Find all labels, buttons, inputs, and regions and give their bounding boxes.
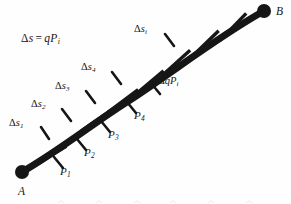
label-ds4-subscript: 4: [92, 66, 96, 74]
leader-ds3: [86, 91, 95, 103]
label-P1-base: P: [60, 165, 67, 177]
label-ds1-delta: Δ: [9, 117, 16, 128]
label-ds3-subscript: 3: [66, 85, 70, 93]
equation-delta-s-label: Δs=qPi: [21, 33, 60, 45]
equation-rhs-subscript: i: [58, 37, 61, 46]
label-dqpi-subscript: i: [176, 80, 178, 88]
label-dsi-subscript: i: [145, 28, 147, 36]
label-dqpi: ΔqPi: [158, 76, 179, 87]
label-dqpi-delta: Δ: [158, 75, 165, 86]
label-ds3: Δs3: [55, 81, 70, 92]
label-ds4-delta: Δ: [81, 61, 88, 72]
leader-ds1: [41, 127, 49, 139]
label-P4: P4: [134, 110, 145, 121]
label-P3-base: P: [108, 128, 115, 140]
label-P4-base: P: [134, 109, 141, 121]
leader-ds2: [62, 109, 71, 121]
leader-ds4: [112, 72, 121, 84]
label-ds2-subscript: 2: [42, 103, 46, 111]
leader-dsi: [165, 34, 174, 46]
label-P2-base: P: [84, 146, 91, 158]
figure-container: Δs=qPi A B P1P2P3P4Δs1Δs2Δs3Δs4ΔsiΔqPi: [0, 0, 291, 204]
label-ds3-delta: Δ: [55, 80, 62, 91]
label-P2: P2: [84, 147, 95, 158]
endpoint-label-b: B: [276, 6, 283, 18]
endpoint-dot-a: [15, 165, 29, 179]
tick-1: [34, 146, 67, 166]
label-P1-subscript: 1: [67, 170, 71, 179]
equation-delta-symbol: Δ: [21, 32, 29, 44]
endpoint-dot-b: [257, 4, 271, 18]
label-ds4: Δs4: [81, 62, 96, 73]
label-P4-subscript: 4: [141, 114, 145, 123]
label-dsi-delta: Δ: [134, 23, 141, 34]
equation-rhs: qP: [44, 32, 57, 44]
endpoint-label-b-text: B: [276, 5, 283, 17]
endpoint-label-a-text: A: [18, 185, 25, 197]
label-ds2: Δs2: [31, 99, 46, 110]
label-ds2-delta: Δ: [31, 98, 38, 109]
label-dqpi-base: qP: [165, 75, 177, 86]
label-P2-subscript: 2: [91, 151, 95, 160]
equation-operator: =: [33, 32, 44, 44]
label-dsi: Δsi: [134, 24, 147, 35]
label-ds1-subscript: 1: [20, 122, 24, 130]
endpoint-label-a: A: [18, 186, 25, 198]
label-ds1: Δs1: [9, 118, 24, 129]
label-P3: P3: [108, 129, 119, 140]
label-P1: P1: [60, 166, 71, 177]
label-P3-subscript: 3: [115, 133, 119, 142]
